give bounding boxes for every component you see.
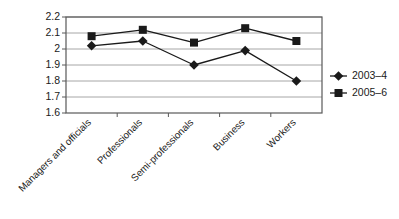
line-chart: 2.22.121.91.81.71.6Managers and official… bbox=[0, 0, 399, 219]
y-axis-tick-label: 1.9 bbox=[45, 58, 60, 70]
legend-marker-square bbox=[335, 89, 343, 97]
data-point-marker-square bbox=[190, 39, 198, 47]
y-axis-tick-label: 1.6 bbox=[45, 106, 60, 118]
y-axis-tick-label: 1.7 bbox=[45, 90, 60, 102]
x-axis-category-label: Workers bbox=[264, 117, 298, 151]
data-point-marker-square bbox=[139, 26, 147, 34]
y-axis-tick-label: 2 bbox=[54, 42, 60, 54]
legend-label-1: 2003–4 bbox=[352, 69, 387, 81]
legend-label-2: 2005–6 bbox=[352, 86, 387, 98]
y-axis-tick-label: 1.8 bbox=[45, 74, 60, 86]
data-point-marker-square bbox=[241, 24, 249, 32]
x-axis-category-label: Business bbox=[211, 117, 247, 153]
legend-marker-diamond bbox=[334, 71, 344, 81]
x-axis-category-label: Managers and officials bbox=[16, 117, 93, 194]
data-point-marker-square bbox=[292, 37, 300, 45]
data-point-marker-square bbox=[88, 32, 96, 40]
x-axis-category-label: Professionals bbox=[95, 117, 144, 166]
y-axis-tick-label: 2.1 bbox=[45, 26, 60, 38]
chart-canvas: 2.22.121.91.81.71.6Managers and official… bbox=[0, 0, 399, 219]
y-axis-tick-label: 2.2 bbox=[45, 10, 60, 22]
